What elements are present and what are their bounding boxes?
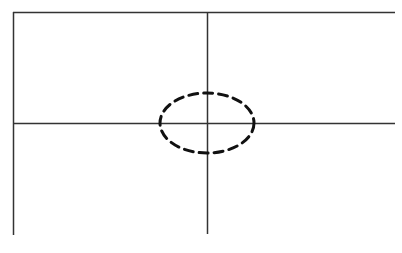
background: [0, 0, 402, 253]
diagram-canvas: [0, 0, 402, 253]
